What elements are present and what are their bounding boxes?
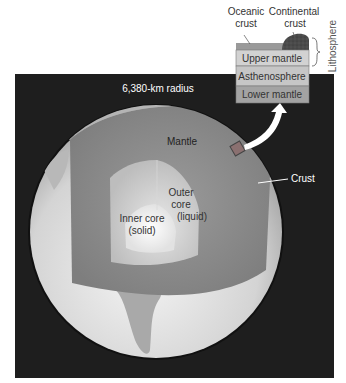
continental-crust-label: Continental (269, 6, 320, 17)
inner-core-label-1: Inner core (119, 213, 164, 224)
mantle-label: Mantle (167, 136, 197, 147)
outer-core-label-1: Outer (168, 187, 194, 198)
oceanic-crust-label-2: crust (235, 18, 257, 29)
crust-label: Crust (291, 173, 315, 184)
asthenosphere-label: Asthenosphere (238, 71, 306, 82)
lower-mantle-label: Lower mantle (242, 89, 302, 100)
radius-label: 6,380-km radius (122, 83, 194, 94)
oceanic-crust-label: Oceanic (228, 6, 265, 17)
continental-crust-shape (282, 34, 309, 52)
continental-crust-label-2: crust (284, 18, 306, 29)
lithosphere-label: Lithosphere (327, 19, 338, 72)
upper-mantle-label: Upper mantle (242, 53, 302, 64)
inner-core-label-2: (solid) (128, 225, 155, 236)
outer-core-label-2: core (171, 199, 191, 210)
lithosphere-brace (312, 38, 320, 66)
earth-structure-diagram: Oceanic crust Continental crust Lithosph… (0, 0, 346, 383)
outer-core-label-3: (liquid) (177, 211, 207, 222)
earth-sphere (28, 103, 284, 360)
